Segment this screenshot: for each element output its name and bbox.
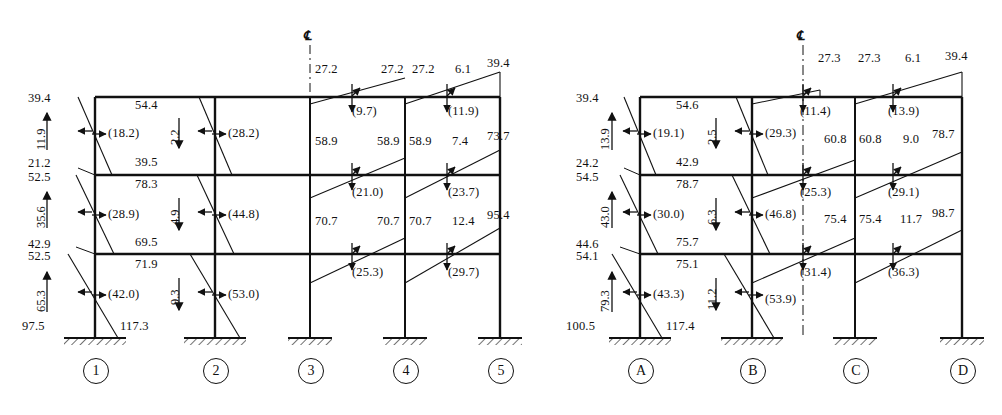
diagram-canvas: ℄ 39.4 11.9 (18.2) 54.4 2.2 (28.2) 21.2 … xyxy=(0,0,1002,415)
r-roof-cl-right-moment: 27.3 xyxy=(858,52,881,65)
level1-col3-right-moment: 70.7 xyxy=(377,215,400,228)
roof-col1-shear: 11.9 xyxy=(34,129,49,150)
roof-joint-1-moment: (18.2) xyxy=(108,127,139,140)
r-level2-beamAB-bottom-moment: 75.7 xyxy=(676,236,699,249)
grid-label-B: B xyxy=(740,358,766,384)
roof-bay45-mid-moment: 6.1 xyxy=(455,63,471,76)
level1-joint-1-moment: (42.0) xyxy=(108,288,139,301)
level1-left-outer-moment: 52.5 xyxy=(28,250,51,263)
r-roof-jointC-right-moment: (13.9) xyxy=(888,105,919,118)
level2-joint-2-moment: (44.8) xyxy=(228,208,259,221)
r-roof-beamAB-drop: 2.5 xyxy=(705,129,720,145)
level2-col4-left-moment: 58.9 xyxy=(409,135,432,148)
r-level1-colA-shear: 79.3 xyxy=(598,290,613,312)
r-roof-colA-shear: 13.9 xyxy=(598,128,613,150)
r-level1-colC-right-moment: 75.4 xyxy=(859,213,882,226)
level1-right-outer-moment: 95.4 xyxy=(487,209,510,222)
r-level1-jointA-moment: (43.3) xyxy=(653,288,684,301)
level2-col4-mid-moment: 7.4 xyxy=(452,135,468,148)
r-level2-colC-right-moment: 60.8 xyxy=(859,133,882,146)
r-roof-beamAB-top-moment: 54.6 xyxy=(676,99,699,112)
r-level1-beamAB-drop: 11.2 xyxy=(705,289,720,310)
grid-label-3: 3 xyxy=(298,358,324,384)
r-roof-jointB-moment: (29.3) xyxy=(765,127,796,140)
level1-joint-2-moment: (53.0) xyxy=(228,288,259,301)
roof-beam-below-left-moment: 21.2 xyxy=(28,157,51,170)
r-level2-left-outer-moment: 54.5 xyxy=(576,171,599,184)
roof-bay34-left-moment: 27.2 xyxy=(381,63,404,76)
r-roof-right-outer-moment: 39.4 xyxy=(945,50,968,63)
level2-joint-4-moment: (23.7) xyxy=(448,186,479,199)
centerline-symbol-left: ℄ xyxy=(303,28,311,44)
grid-label-D: D xyxy=(950,358,976,384)
level2-col3-right-moment: 58.9 xyxy=(377,135,400,148)
roof-left-outer-moment-left: 39.4 xyxy=(28,92,51,105)
r-level1-beamAB-top-moment: 75.1 xyxy=(676,258,699,271)
roof-bay45-left-moment: 27.2 xyxy=(412,63,435,76)
r-level1-jointB-moment: (53.9) xyxy=(765,293,796,306)
r-base-colA-moment: 100.5 xyxy=(566,320,595,333)
base-col2-moment: 117.3 xyxy=(120,320,149,333)
level1-col3-left-moment: 70.7 xyxy=(315,215,338,228)
level1-joint-3-moment: (25.3) xyxy=(352,266,383,279)
left-frame-skeleton xyxy=(95,97,500,338)
level2-beam12-bottom-moment: 69.5 xyxy=(135,236,158,249)
r-roof-beam-below-left-moment: 24.2 xyxy=(576,157,599,170)
level2-joint-1-moment: (28.9) xyxy=(108,208,139,221)
base-col1-moment: 97.5 xyxy=(22,320,45,333)
r-level2-jointC-left-moment: (25.3) xyxy=(800,186,831,199)
roof-joint-3-moment: (9.7) xyxy=(352,105,377,118)
level2-col3-left-moment: 58.9 xyxy=(315,135,338,148)
right-frame-supports xyxy=(609,338,984,345)
roof-joint-4-moment: (11.9) xyxy=(448,105,479,118)
left-frame-arrows xyxy=(47,84,455,312)
roof-centerline-moment: 27.2 xyxy=(315,63,338,76)
r-level2-colC-left-moment: 60.8 xyxy=(824,133,847,146)
grid-label-5: 5 xyxy=(488,358,514,384)
r-level1-colC-left-moment: 75.4 xyxy=(824,213,847,226)
right-frame-arrows xyxy=(612,84,901,312)
r-level1-jointC-right-moment: (36.3) xyxy=(888,266,919,279)
level1-col4-mid-moment: 12.4 xyxy=(452,215,475,228)
grid-label-C: C xyxy=(843,358,869,384)
level1-col1-shear: 65.3 xyxy=(34,290,49,312)
r-level2-jointA-moment: (30.0) xyxy=(653,208,684,221)
r-level2-jointC-right-moment: (29.1) xyxy=(888,186,919,199)
right-frame-column-moments xyxy=(612,97,774,338)
level1-beam12-top-moment: 71.9 xyxy=(135,258,158,271)
level2-beam12-drop: 4.9 xyxy=(168,209,183,225)
r-base-colB-moment: 117.4 xyxy=(666,320,695,333)
level1-joint-4-moment: (29.7) xyxy=(448,266,479,279)
level2-right-outer-moment: 73.7 xyxy=(487,130,510,143)
r-roof-cl-left-moment: 27.3 xyxy=(818,52,841,65)
roof-right-outer-moment: 39.4 xyxy=(487,57,510,70)
r-level1-cd-mid-moment: 11.7 xyxy=(900,213,922,226)
r-level2-beamAB-top-moment: 78.7 xyxy=(676,178,699,191)
r-roof-cd-mid-moment: 6.1 xyxy=(905,52,921,65)
grid-label-4: 4 xyxy=(393,358,419,384)
r-roof-beamAB-bottom-moment: 42.9 xyxy=(676,156,699,169)
level2-joint-3-moment: (21.0) xyxy=(352,186,383,199)
r-level1-left-outer-moment: 54.1 xyxy=(576,250,599,263)
r-roof-jointC-left-moment: (11.4) xyxy=(800,105,831,118)
level1-beam12-drop: 9.3 xyxy=(168,289,183,305)
grid-label-2: 2 xyxy=(203,358,229,384)
grid-label-1: 1 xyxy=(83,358,109,384)
r-level2-cd-mid-moment: 9.0 xyxy=(903,133,919,146)
roof-beam12-drop: 2.2 xyxy=(168,129,183,145)
roof-beam12-top-moment: 54.4 xyxy=(135,99,158,112)
r-level2-right-outer-moment: 78.7 xyxy=(932,128,955,141)
r-roof-jointA-moment: (19.1) xyxy=(653,127,684,140)
level2-col1-shear: 35.6 xyxy=(34,206,49,228)
r-roof-left-outer-moment: 39.4 xyxy=(576,92,599,105)
roof-beam12-bottom-moment: 39.5 xyxy=(135,156,158,169)
level2-beam12-top-moment: 78.3 xyxy=(135,178,158,191)
r-level2-jointB-moment: (46.8) xyxy=(765,208,796,221)
roof-joint-2-moment: (28.2) xyxy=(228,127,259,140)
r-level2-colA-shear: 43.0 xyxy=(598,206,613,228)
r-level1-right-outer-moment: 98.7 xyxy=(932,207,955,220)
left-frame-supports xyxy=(64,338,522,345)
r-level1-jointC-left-moment: (31.4) xyxy=(800,266,831,279)
r-level2-beamAB-drop: 6.3 xyxy=(705,209,720,225)
level1-col4-left-moment: 70.7 xyxy=(409,215,432,228)
